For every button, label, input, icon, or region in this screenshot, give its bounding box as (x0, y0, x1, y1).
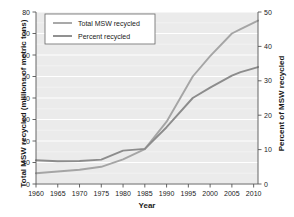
chart-figure: 1960196519701975198019851990199520002005… (0, 0, 294, 217)
svg-text:1990: 1990 (159, 190, 175, 197)
svg-text:1980: 1980 (115, 190, 131, 197)
svg-text:Total MSW recycled: Total MSW recycled (78, 20, 140, 28)
y-axis-right-ticks: 01020304050 (258, 9, 272, 188)
chart-legend: Total MSW recycledPercent recycled (45, 14, 155, 44)
svg-text:Percent recycled: Percent recycled (78, 33, 130, 41)
y-axis-right-title: Percent of MSW recycled (277, 19, 286, 189)
svg-text:40: 40 (264, 43, 272, 50)
x-axis-ticks: 1960196519701975198019851990199520002005… (28, 184, 261, 197)
svg-text:30: 30 (264, 77, 272, 84)
svg-text:50: 50 (264, 9, 272, 16)
x-axis-title: Year (0, 201, 294, 210)
svg-text:1965: 1965 (50, 190, 66, 197)
svg-text:20: 20 (264, 112, 272, 119)
y-axis-left-title: Total MSW recycled (millions of metric t… (19, 19, 28, 189)
svg-text:80: 80 (22, 9, 30, 16)
svg-text:0: 0 (264, 181, 268, 188)
svg-text:2010: 2010 (246, 190, 262, 197)
svg-text:2005: 2005 (224, 190, 240, 197)
svg-text:1985: 1985 (137, 190, 153, 197)
svg-text:2000: 2000 (202, 190, 218, 197)
chart-canvas: 1960196519701975198019851990199520002005… (0, 0, 294, 217)
svg-text:10: 10 (264, 146, 272, 153)
svg-text:1970: 1970 (72, 190, 88, 197)
svg-text:1995: 1995 (181, 190, 197, 197)
svg-text:1960: 1960 (28, 190, 44, 197)
svg-text:1975: 1975 (94, 190, 110, 197)
